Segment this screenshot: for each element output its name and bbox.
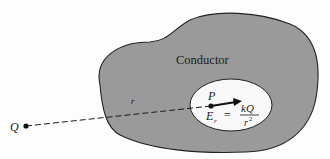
equals-sign: = xyxy=(224,108,231,122)
conductor-diagram: Conductor Q r P E r = kQ r 2 xyxy=(0,0,330,159)
field-label: E xyxy=(205,109,214,123)
field-subscript: r xyxy=(214,117,217,125)
conductor-label: Conductor xyxy=(176,53,230,67)
charge-point xyxy=(23,123,28,128)
distance-label: r xyxy=(131,96,135,106)
charge-label: Q xyxy=(10,120,19,134)
cavity xyxy=(190,79,272,131)
point-label: P xyxy=(207,89,216,103)
denominator: r xyxy=(244,117,248,128)
denominator-exponent: 2 xyxy=(249,115,252,122)
numerator: kQ xyxy=(241,102,254,114)
